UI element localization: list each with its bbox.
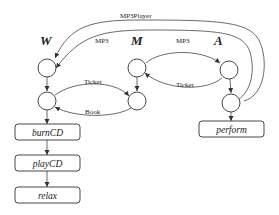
edge-label-mp3-w: MP3	[95, 37, 109, 45]
role-label-w: W	[40, 33, 53, 48]
edge-label-mp3-a: MP3	[176, 37, 190, 45]
edge-label-ticket-w: Ticket	[84, 78, 102, 86]
node-w1	[38, 59, 56, 77]
node-a2	[222, 94, 240, 112]
edge-label-mp3player: MP3Player	[120, 12, 152, 20]
node-m1	[128, 59, 146, 77]
edge-a1-a2	[230, 79, 231, 93]
edge-mp3player	[55, 20, 264, 101]
action-label-perform: perform	[215, 125, 247, 135]
role-label-a: A	[213, 33, 223, 48]
node-m2	[128, 92, 146, 110]
edge-mp3-m-to-a	[146, 52, 220, 63]
action-label-relax: relax	[38, 191, 58, 201]
edge-label-ticket-m: Ticket	[176, 81, 194, 89]
choreography-diagram: W M A MP3Player MP3 MP3 Ticket Ticket Bo…	[0, 0, 279, 215]
node-a1	[220, 61, 238, 79]
role-label-m: M	[130, 33, 143, 48]
edge-label-book: Book	[85, 108, 101, 116]
node-w2	[38, 92, 56, 110]
action-label-playcd: playCD	[32, 159, 63, 169]
action-label-burncd: burnCD	[32, 128, 63, 138]
